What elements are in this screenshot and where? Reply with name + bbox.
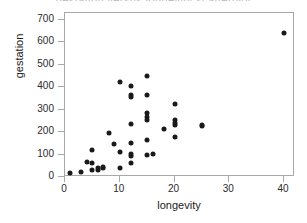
data-point — [90, 160, 95, 165]
y-axis-tick-label: 200 — [24, 126, 54, 136]
y-axis-tick-label: 600 — [24, 36, 54, 46]
data-point — [95, 165, 100, 170]
x-axis-tick-label: 10 — [113, 184, 124, 194]
data-point — [145, 118, 150, 123]
data-point — [145, 152, 150, 157]
data-point — [161, 127, 166, 132]
data-point — [68, 171, 73, 176]
x-axis-tick-mark — [174, 176, 175, 182]
x-axis-tick-label: 20 — [168, 184, 179, 194]
y-axis-tick-label: 0 — [24, 171, 54, 181]
x-axis-tick-mark — [64, 176, 65, 182]
data-point — [106, 130, 111, 135]
x-axis-tick-mark — [228, 176, 229, 182]
data-point — [172, 101, 177, 106]
x-axis-title: longevity — [64, 199, 294, 211]
data-point — [128, 95, 133, 100]
plot-frame — [64, 12, 294, 176]
data-point — [172, 123, 177, 128]
data-point — [90, 168, 95, 173]
data-point — [117, 79, 122, 84]
data-point — [112, 141, 117, 146]
y-axis-tick-label: 700 — [24, 14, 54, 24]
data-point — [150, 151, 155, 156]
data-point — [199, 124, 204, 129]
clipped-title-text: gestation versus longevity scatterplot — [0, 0, 307, 1]
data-point — [282, 31, 287, 36]
plot-data-area — [65, 13, 293, 175]
data-point — [84, 159, 89, 164]
data-point — [128, 160, 133, 165]
x-axis-tick-label: 0 — [61, 184, 67, 194]
data-point — [117, 165, 122, 170]
x-axis-tick-label: 40 — [277, 184, 288, 194]
x-axis-tick-mark — [283, 176, 284, 182]
data-point — [128, 141, 133, 146]
data-point — [145, 74, 150, 79]
y-axis-tick-label: 500 — [24, 59, 54, 69]
data-point — [90, 148, 95, 153]
data-point — [128, 121, 133, 126]
data-point — [117, 150, 122, 155]
data-point — [101, 165, 106, 170]
data-point — [79, 170, 84, 175]
scatter-plot-figure: gestation versus longevity scatterplot 0… — [0, 0, 307, 223]
x-axis-tick-mark — [119, 176, 120, 182]
y-axis-tick-label: 400 — [24, 81, 54, 91]
data-point — [128, 153, 133, 158]
y-axis-tick-label: 100 — [24, 149, 54, 159]
y-axis-title: gestation — [13, 16, 25, 96]
data-point — [128, 83, 133, 88]
data-point — [145, 92, 150, 97]
y-axis-tick-label: 300 — [24, 104, 54, 114]
data-point — [145, 138, 150, 143]
x-axis-tick-label: 30 — [223, 184, 234, 194]
data-point — [172, 134, 177, 139]
